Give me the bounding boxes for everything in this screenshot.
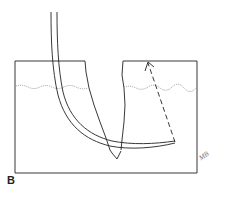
dermal-line bbox=[16, 84, 196, 91]
panel-label: B bbox=[7, 174, 15, 186]
needle-path-arrow bbox=[145, 62, 175, 142]
tissue-block bbox=[15, 61, 197, 173]
needle bbox=[51, 12, 175, 148]
suture-diagram bbox=[0, 0, 225, 198]
